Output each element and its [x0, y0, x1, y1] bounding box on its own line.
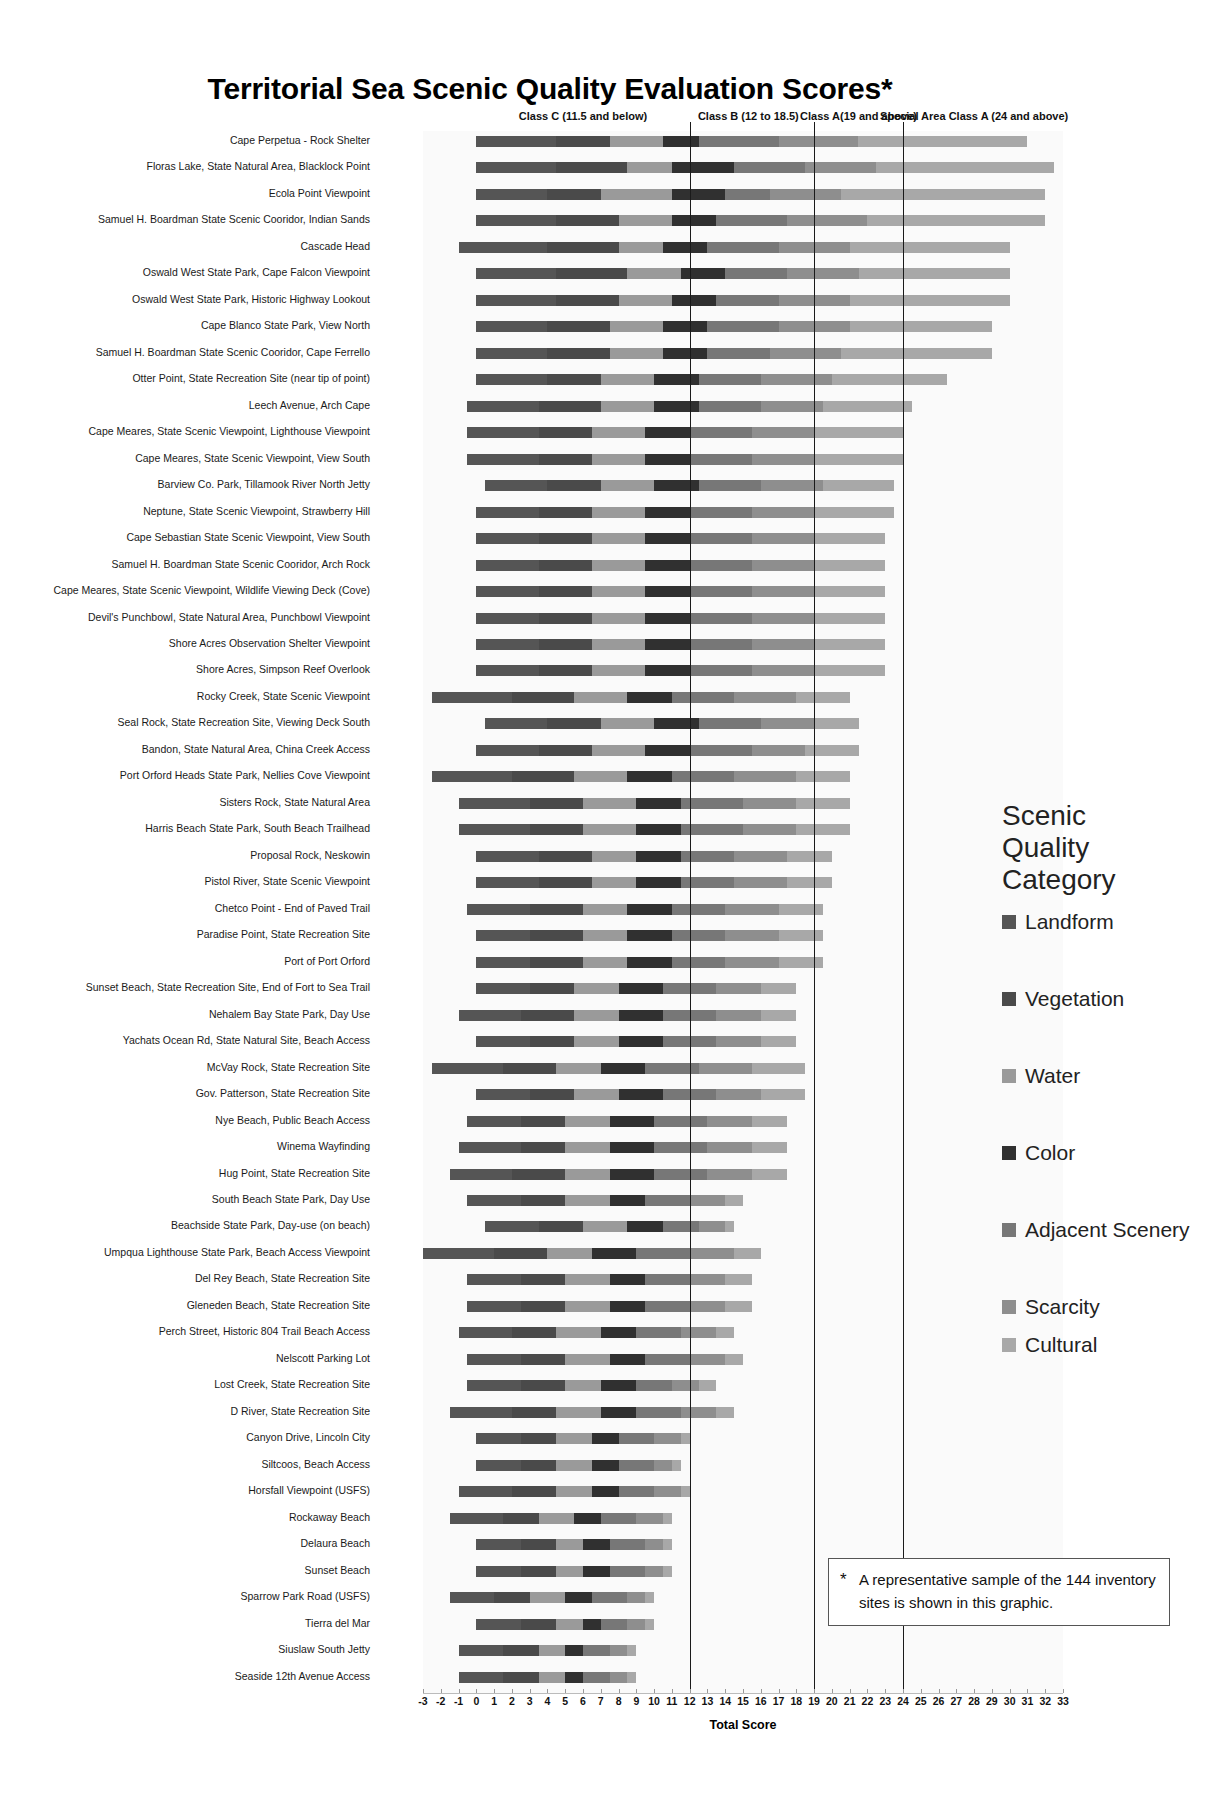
bar-segment-color: [565, 1592, 592, 1603]
axis-tickmark: [636, 1689, 637, 1693]
stacked-bar: [467, 1195, 743, 1206]
bar-segment-cultural: [663, 1566, 672, 1577]
bar-segment-landform: [476, 983, 529, 994]
category-label: Rocky Creek, State Scenic Viewpoint: [0, 691, 370, 702]
bar-segment-landform: [450, 1592, 494, 1603]
axis-tickmark: [850, 1689, 851, 1693]
bar-segment-scarcity: [761, 374, 832, 385]
class-header-4: Special Area Class A (24 and above): [880, 110, 1068, 122]
bar-segment-water: [627, 162, 671, 173]
bar-segment-water: [565, 1354, 609, 1365]
bar-segment-vegetation: [521, 1274, 565, 1285]
stacked-bar: [476, 639, 885, 650]
bar-segment-color: [583, 1619, 601, 1630]
bar-segment-color: [645, 533, 689, 544]
bar-row: [423, 687, 1063, 713]
category-label: Sunset Beach: [0, 1565, 370, 1576]
bar-segment-adjacent-scenery: [672, 771, 734, 782]
axis-tickmark: [992, 1689, 993, 1693]
legend-item-scarcity[interactable]: Scarcity: [1002, 1295, 1222, 1333]
stacked-bar: [476, 162, 1054, 173]
bar-segment-vegetation: [556, 215, 618, 226]
bar-segment-scarcity: [734, 877, 787, 888]
stacked-bar: [432, 771, 850, 782]
bar-segment-cultural: [627, 1672, 636, 1683]
bar-segment-vegetation: [512, 692, 574, 703]
legend-item-landform[interactable]: Landform: [1002, 910, 1222, 987]
bar-row: [423, 952, 1063, 978]
axis-tickmark: [761, 1689, 762, 1693]
bar-segment-water: [539, 1513, 575, 1524]
stacked-bar: [459, 798, 850, 809]
axis-tickmark: [725, 1689, 726, 1693]
bar-segment-adjacent-scenery: [636, 1380, 672, 1391]
axis-tick-label: 0: [473, 1695, 479, 1707]
stacked-bar: [476, 136, 1027, 147]
bar-segment-landform: [476, 268, 556, 279]
bar-segment-water: [556, 1407, 600, 1418]
legend-label: Cultural: [1025, 1333, 1097, 1357]
axis-tick-label: 8: [616, 1695, 622, 1707]
bar-segment-cultural: [725, 1354, 743, 1365]
axis-tickmark: [601, 1689, 602, 1693]
stacked-bar: [476, 1539, 672, 1550]
legend-item-water[interactable]: Water: [1002, 1064, 1222, 1141]
bar-segment-vegetation: [512, 771, 574, 782]
bar-segment-landform: [476, 533, 538, 544]
axis-tickmark: [672, 1689, 673, 1693]
bar-segment-vegetation: [547, 189, 600, 200]
bar-segment-water: [556, 1539, 583, 1550]
bar-row: [423, 978, 1063, 1004]
bar-segment-landform: [467, 401, 538, 412]
stacked-bar: [476, 268, 1009, 279]
legend-item-color[interactable]: Color: [1002, 1141, 1222, 1218]
bar-segment-water: [574, 692, 627, 703]
bar-segment-water: [547, 1248, 591, 1259]
category-label: Neptune, State Scenic Viewpoint, Strawbe…: [0, 506, 370, 517]
legend-item-adjacent-scenery[interactable]: Adjacent Scenery: [1002, 1218, 1222, 1295]
bar-segment-color: [610, 1195, 646, 1206]
stacked-bar: [476, 1566, 672, 1577]
bar-segment-cultural: [814, 427, 903, 438]
bar-segment-landform: [476, 851, 538, 862]
legend-item-cultural[interactable]: Cultural: [1002, 1333, 1222, 1371]
class-header-row: Class C (11.5 and below)Class B (12 to 1…: [0, 110, 1229, 126]
bar-segment-scarcity: [805, 162, 876, 173]
bar-segment-water: [592, 851, 636, 862]
bar-segment-cultural: [725, 1301, 752, 1312]
bar-segment-landform: [476, 136, 556, 147]
bar-segment-scarcity: [636, 1513, 663, 1524]
axis-tick-label: 26: [933, 1695, 945, 1707]
axis-tick-label: 30: [1004, 1695, 1016, 1707]
bar-segment-cultural: [645, 1592, 654, 1603]
bar-segment-color: [601, 1327, 637, 1338]
legend-item-vegetation[interactable]: Vegetation: [1002, 987, 1222, 1064]
category-label: South Beach State Park, Day Use: [0, 1194, 370, 1205]
bar-row: [423, 793, 1063, 819]
category-label: Horsfall Viewpoint (USFS): [0, 1485, 370, 1496]
bar-segment-cultural: [752, 1116, 788, 1127]
bar-segment-color: [636, 824, 680, 835]
bar-segment-adjacent-scenery: [672, 930, 725, 941]
category-label: Cape Sebastian State Scenic Viewpoint, V…: [0, 532, 370, 543]
bar-segment-cultural: [814, 507, 894, 518]
plot-area: [423, 131, 1063, 1693]
axis-tick-label: 24: [897, 1695, 909, 1707]
bar-segment-vegetation: [539, 613, 592, 624]
stacked-bar: [476, 851, 832, 862]
bar-segment-water: [592, 613, 645, 624]
bar-segment-adjacent-scenery: [707, 348, 769, 359]
bar-segment-color: [565, 1672, 583, 1683]
axis-tick-label: 4: [545, 1695, 551, 1707]
category-label: Bandon, State Natural Area, China Creek …: [0, 744, 370, 755]
bar-segment-color: [592, 1460, 619, 1471]
axis-line: [423, 1693, 1063, 1694]
stacked-bar: [476, 1089, 805, 1100]
axis-tickmark: [956, 1689, 957, 1693]
class-header-2: Class B (12 to 18.5): [698, 110, 799, 122]
category-label: Paradise Point, State Recreation Site: [0, 929, 370, 940]
bar-segment-color: [672, 295, 716, 306]
axis-tickmark: [423, 1689, 424, 1693]
bar-segment-color: [627, 930, 671, 941]
axis-tickmark: [583, 1689, 584, 1693]
